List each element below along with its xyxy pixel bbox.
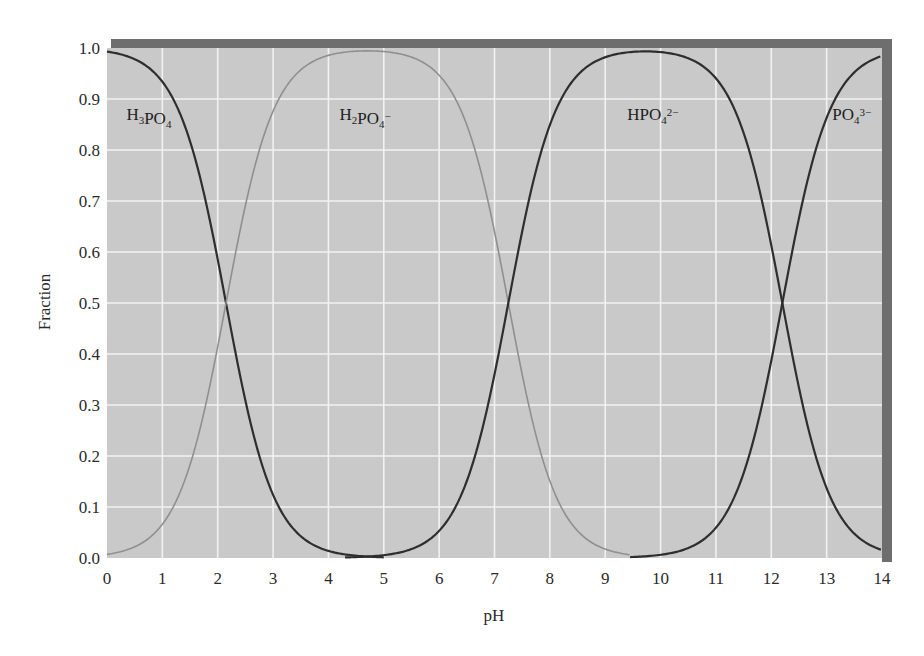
y-tick-label: 0.8: [79, 141, 100, 160]
x-tick-label: 0: [103, 569, 112, 588]
y-tick-label: 0.1: [79, 498, 100, 517]
y-tick-label: 0.4: [79, 345, 101, 364]
speciation-chart: H3PO4H2PO4−HPO42−PO43− 01234567891011121…: [0, 0, 924, 656]
y-tick-label: 1.0: [79, 39, 100, 58]
shadow-right: [882, 39, 892, 562]
y-tick-label: 0.2: [79, 447, 100, 466]
x-tick-label: 1: [158, 569, 167, 588]
x-tick-label: 5: [380, 569, 389, 588]
x-tick-label: 3: [269, 569, 278, 588]
x-tick-label: 2: [213, 569, 222, 588]
x-tick-label: 6: [435, 569, 444, 588]
x-tick-label: 4: [324, 569, 333, 588]
x-tick-label: 11: [708, 569, 724, 588]
x-tick-label: 10: [652, 569, 669, 588]
y-tick-label: 0.7: [79, 192, 101, 211]
y-tick-label: 0.5: [79, 294, 100, 313]
shadow-top: [111, 39, 892, 49]
x-tick-label: 12: [763, 569, 780, 588]
x-tick-labels: 01234567891011121314: [103, 569, 891, 588]
y-tick-label: 0.6: [79, 243, 100, 262]
y-axis-label: Fraction: [35, 273, 54, 330]
x-tick-label: 8: [546, 569, 555, 588]
x-tick-label: 7: [490, 569, 499, 588]
y-tick-label: 0.9: [79, 90, 100, 109]
x-tick-label: 13: [818, 569, 835, 588]
x-tick-label: 14: [874, 569, 892, 588]
x-axis-label: pH: [484, 606, 505, 625]
y-tick-labels: 0.00.10.20.30.40.50.60.70.80.91.0: [79, 39, 101, 568]
y-tick-label: 0.3: [79, 396, 100, 415]
y-tick-label: 0.0: [79, 549, 100, 568]
x-tick-label: 9: [601, 569, 610, 588]
